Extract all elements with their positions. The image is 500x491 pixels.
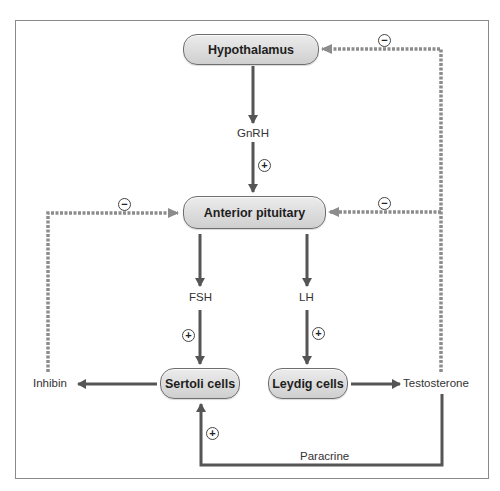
- node-sertoli-cells: Sertoli cells: [160, 368, 240, 399]
- minus-sign-icon: −: [378, 34, 391, 47]
- node-leydig-cells: Leydig cells: [268, 368, 348, 399]
- node-anterior-pituitary: Anterior pituitary: [183, 196, 326, 229]
- node-anterior-pituitary-label: Anterior pituitary: [204, 206, 305, 220]
- node-leydig-cells-label: Leydig cells: [272, 377, 344, 391]
- plus-sign-icon: +: [182, 329, 195, 342]
- label-paracrine: Paracrine: [300, 450, 349, 462]
- plus-sign-icon: +: [206, 427, 219, 440]
- node-hypothalamus: Hypothalamus: [183, 34, 319, 65]
- plus-sign-icon: +: [312, 327, 325, 340]
- label-inhibin: Inhibin: [33, 377, 67, 389]
- minus-sign-icon: −: [118, 198, 131, 211]
- dashed-inhibin-to-pituitary: [48, 213, 178, 372]
- label-testosterone: Testosterone: [403, 377, 469, 389]
- node-hypothalamus-label: Hypothalamus: [208, 43, 294, 57]
- label-lh: LH: [299, 291, 314, 303]
- connector-layer: [0, 0, 500, 491]
- label-gnrh: GnRH: [237, 127, 269, 139]
- node-sertoli-cells-label: Sertoli cells: [165, 377, 235, 391]
- plus-sign-icon: +: [258, 159, 271, 172]
- label-fsh: FSH: [189, 291, 212, 303]
- diagram-canvas: Hypothalamus Anterior pituitary Sertoli …: [0, 0, 500, 491]
- minus-sign-icon: −: [378, 197, 391, 210]
